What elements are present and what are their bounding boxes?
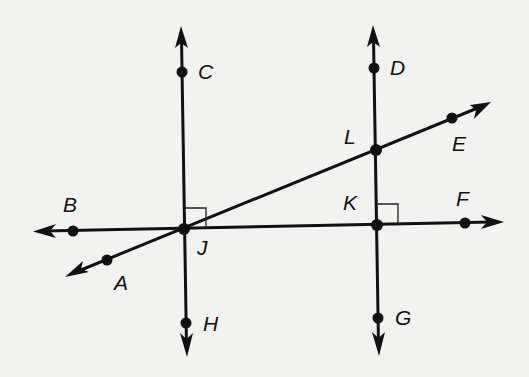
- line-dg: [367, 25, 385, 356]
- line-ae: [65, 102, 491, 277]
- point-k: [371, 219, 383, 231]
- point-f: [460, 218, 471, 229]
- label-a: A: [112, 271, 128, 294]
- label-g: G: [395, 306, 411, 329]
- geometry-diagram: A B C D E F G H J K L: [0, 0, 529, 377]
- line-bf: [33, 215, 504, 238]
- label-d: D: [390, 56, 405, 79]
- label-f: F: [456, 187, 470, 210]
- label-l: L: [344, 125, 356, 148]
- point-e: [447, 113, 458, 124]
- point-c: [177, 67, 188, 78]
- label-c: C: [198, 60, 214, 83]
- point-a: [102, 255, 113, 266]
- point-j: [178, 223, 190, 235]
- label-e: E: [452, 132, 467, 155]
- label-b: B: [63, 193, 77, 216]
- label-h: H: [203, 312, 219, 335]
- point-g: [373, 313, 384, 324]
- point-h: [181, 318, 192, 329]
- point-l: [370, 144, 382, 156]
- point-b: [68, 226, 79, 237]
- label-k: K: [343, 191, 358, 214]
- point-d: [369, 63, 380, 74]
- label-j: J: [196, 236, 208, 259]
